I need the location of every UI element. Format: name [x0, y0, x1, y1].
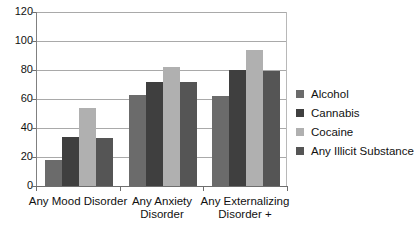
bar-group: [212, 12, 280, 186]
x-tick-mark: [36, 186, 37, 191]
legend-item[interactable]: Cocaine: [296, 122, 420, 141]
bar: [263, 71, 280, 186]
bar: [62, 137, 79, 186]
x-axis-label-line: Disorder +: [191, 208, 299, 221]
bar: [146, 82, 163, 186]
x-tick-mark: [287, 186, 288, 191]
x-tick-mark: [120, 186, 121, 191]
bar: [96, 138, 113, 186]
bar: [79, 108, 96, 186]
x-axis-line: [36, 186, 287, 187]
legend-label: Alcohol: [311, 88, 349, 100]
y-tick-label: 0: [3, 180, 33, 191]
legend-swatch-icon: [296, 128, 304, 136]
y-tick-label: 20: [3, 151, 33, 162]
y-tick-label: 40: [3, 122, 33, 133]
y-tick-label: 120: [3, 6, 33, 17]
legend-item[interactable]: Any Illicit Substance: [296, 141, 420, 160]
x-axis-label-line: Any Externalizing: [191, 195, 299, 208]
legend-item[interactable]: Cannabis: [296, 103, 420, 122]
bar-group: [129, 12, 197, 186]
bar: [246, 50, 263, 186]
legend-label: Any Illicit Substance: [311, 145, 414, 157]
bar-group: [45, 12, 113, 186]
legend-label: Cannabis: [311, 107, 360, 119]
x-tick-mark: [203, 186, 204, 191]
y-tick-label: 100: [3, 35, 33, 46]
chart-legend: AlcoholCannabisCocaineAny Illicit Substa…: [296, 84, 420, 160]
bar: [229, 70, 246, 186]
bar: [163, 67, 180, 186]
bar: [45, 160, 62, 186]
plot-area: [36, 12, 287, 186]
y-tick-label: 80: [3, 64, 33, 75]
legend-swatch-icon: [296, 90, 304, 98]
bar: [180, 82, 197, 186]
bar: [212, 96, 229, 186]
legend-item[interactable]: Alcohol: [296, 84, 420, 103]
legend-swatch-icon: [296, 147, 304, 155]
legend-swatch-icon: [296, 109, 304, 117]
y-tick-label: 60: [3, 93, 33, 104]
legend-label: Cocaine: [311, 126, 353, 138]
bar-chart: 020406080100120 Any Mood DisorderAny Anx…: [0, 0, 420, 230]
x-axis-label: Any ExternalizingDisorder +: [191, 195, 299, 221]
bar: [129, 95, 146, 186]
